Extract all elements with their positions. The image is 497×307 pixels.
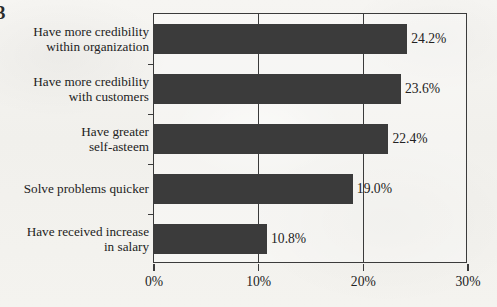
figure-number-label: 3 (0, 2, 6, 24)
bar (154, 124, 388, 154)
bar-value-label: 10.8% (271, 231, 306, 247)
x-axis-tick (258, 264, 259, 271)
category-label: Have more credibility with customers (2, 74, 154, 105)
x-axis-tick-label: 20% (351, 274, 376, 290)
bar (154, 224, 267, 254)
horizontal-bar-chart: 3 Have more credibility within organizat… (0, 0, 497, 307)
category-label: Have greater self-asteem (2, 124, 154, 155)
category-axis-tick (148, 214, 154, 215)
bar-value-label: 19.0% (357, 181, 392, 197)
bar-value-label: 24.2% (411, 31, 446, 47)
category-label: Have more credibility within organizatio… (2, 24, 154, 55)
x-axis-tick-label: 10% (246, 274, 271, 290)
plot-area: Have more credibility within organizatio… (153, 13, 467, 263)
x-axis-tick (153, 264, 154, 271)
category-axis-tick (148, 64, 154, 65)
x-axis-tick-label: 0% (145, 274, 163, 290)
bar (154, 24, 407, 54)
bar-value-label: 23.6% (405, 81, 440, 97)
x-axis-tick (363, 264, 364, 271)
category-label: Have received increase in salary (2, 224, 154, 255)
bar-value-label: 22.4% (392, 131, 427, 147)
x-axis-tick (467, 264, 468, 271)
bar (154, 174, 353, 204)
bar (154, 74, 401, 104)
category-axis-tick (148, 114, 154, 115)
x-axis-tick-label: 30% (456, 274, 481, 290)
category-label: Solve problems quicker (2, 181, 154, 197)
category-axis-tick (148, 164, 154, 165)
